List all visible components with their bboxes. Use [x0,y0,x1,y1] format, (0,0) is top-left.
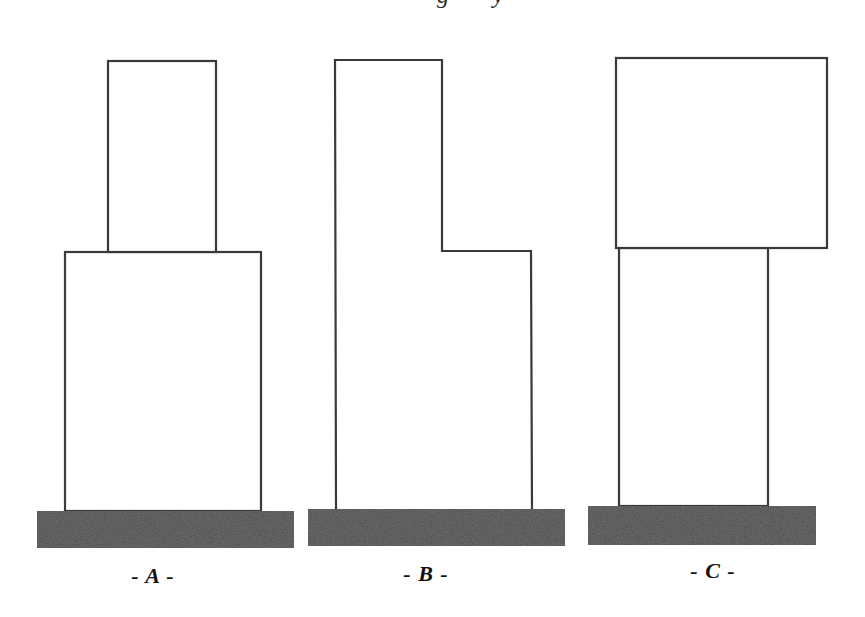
figure-a-lower-box [65,252,261,511]
figure-b-label: - B - [403,561,448,587]
stacked-volumes-diagram [0,0,865,617]
figure-a-upper-box [108,61,216,252]
figure-a-base [37,511,294,548]
figure-a-label: - A - [131,563,174,589]
figure-a [37,61,294,548]
figure-b-base [308,509,565,546]
figure-c-upper-box [616,58,827,248]
figure-c [588,58,827,545]
figure-c-label: - C - [690,558,735,584]
figure-b-outline [335,60,532,509]
figure-c-lower-box [619,248,768,506]
figure-b [308,60,565,546]
figure-c-base [588,506,816,545]
